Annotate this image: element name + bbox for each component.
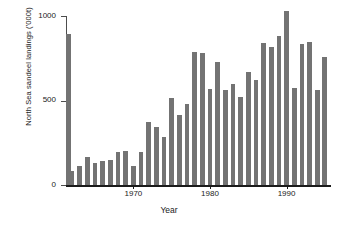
bar-1974 bbox=[162, 137, 167, 185]
x-tick-label-1990: 1990 bbox=[267, 190, 307, 198]
y-tick-0 bbox=[61, 185, 66, 186]
bar-1992 bbox=[300, 44, 305, 185]
bar-1968 bbox=[116, 152, 121, 185]
x-axis-spine bbox=[66, 185, 331, 187]
y-tick-label-500: 500 bbox=[16, 96, 56, 104]
bar-1970 bbox=[131, 166, 136, 185]
bar-1981 bbox=[215, 62, 220, 185]
y-axis-label: North Sea sandeel landings ('000t) bbox=[24, 0, 33, 147]
bar-series bbox=[66, 16, 331, 185]
bar-1995 bbox=[322, 57, 327, 185]
bar-1975 bbox=[169, 98, 174, 185]
bar-undefined bbox=[66, 34, 71, 185]
bar-1973 bbox=[154, 127, 159, 185]
bar-1988 bbox=[269, 47, 274, 185]
x-tick-label-1970: 1970 bbox=[113, 190, 153, 198]
bar-1972 bbox=[146, 122, 151, 185]
bar-1965 bbox=[93, 163, 98, 185]
bar-1967 bbox=[108, 160, 113, 185]
y-tick-label-1000: 1000 bbox=[16, 12, 56, 20]
sandeel-landings-bar-chart: North Sea sandeel landings ('000t) 05001… bbox=[0, 0, 338, 226]
bar-1993 bbox=[307, 42, 312, 185]
x-tick-label-1980: 1980 bbox=[190, 190, 230, 198]
bar-1982 bbox=[223, 90, 228, 185]
bar-1971 bbox=[139, 152, 144, 185]
bar-1994 bbox=[315, 90, 320, 185]
bar-1976 bbox=[177, 115, 182, 185]
bar-1990 bbox=[284, 11, 289, 185]
bar-1979 bbox=[200, 53, 205, 185]
bar-1969 bbox=[123, 151, 128, 185]
bar-1991 bbox=[292, 88, 297, 185]
bar-1986 bbox=[254, 80, 259, 185]
bar-1989 bbox=[277, 36, 282, 185]
bar-1985 bbox=[246, 72, 251, 185]
bar-1964 bbox=[85, 157, 90, 185]
bar-1963 bbox=[77, 166, 82, 185]
bar-1977 bbox=[185, 104, 190, 185]
bar-1983 bbox=[231, 84, 236, 185]
bar-1980 bbox=[208, 89, 213, 185]
x-axis-label: Year bbox=[0, 205, 338, 215]
bar-1966 bbox=[100, 161, 105, 185]
bar-1978 bbox=[192, 52, 197, 185]
bar-1984 bbox=[238, 97, 243, 185]
y-tick-label-0: 0 bbox=[16, 181, 56, 189]
bar-1987 bbox=[261, 43, 266, 185]
